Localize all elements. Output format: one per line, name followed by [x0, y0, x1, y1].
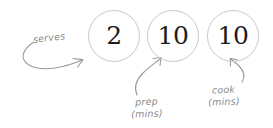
recipe-stats-graphic: 2 10 10 serves prep (mins) cook (mins) [0, 0, 273, 128]
prep-arrow-icon [136, 58, 161, 96]
annotation-line: serves [32, 30, 65, 45]
stat-value-prep: 10 [158, 23, 189, 48]
annotation-line: prep [131, 95, 163, 108]
stat-circle-prep: 10 [147, 10, 199, 62]
annotation-label-serves: serves [32, 30, 65, 45]
stat-value-serves: 2 [106, 23, 121, 48]
annotation-line: (mins) [131, 107, 163, 120]
annotation-line: cook [208, 83, 240, 96]
annotation-line: (mins) [208, 95, 240, 108]
stat-circle-serves: 2 [88, 10, 140, 62]
annotation-label-cook: cook (mins) [208, 83, 240, 108]
serves-arrow-icon [23, 42, 83, 69]
annotation-label-prep: prep (mins) [131, 95, 163, 120]
stat-value-cook: 10 [218, 23, 249, 48]
stat-circle-cook: 10 [207, 10, 259, 62]
